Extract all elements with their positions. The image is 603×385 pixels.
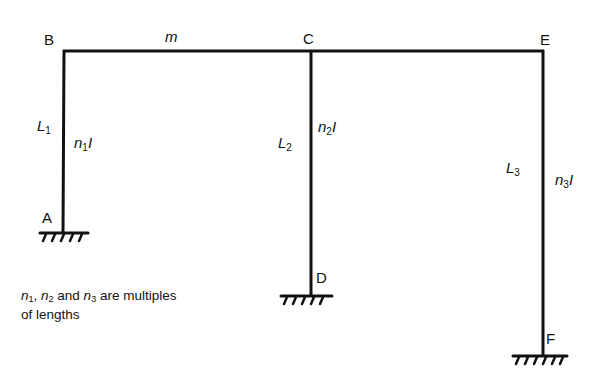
note-n2: n	[41, 288, 49, 303]
node-label-b: B	[44, 32, 54, 47]
stiffness-label-n1i: n1I	[74, 135, 92, 153]
fixed-support-f-icon	[513, 356, 567, 364]
frame-diagram	[0, 0, 603, 385]
fixed-support-d-icon	[281, 296, 332, 304]
stiffness-label-n2i: n2I	[318, 119, 336, 137]
length-label-l3: L3	[506, 160, 520, 178]
note-tail: are multiples	[96, 288, 176, 303]
node-label-d: D	[316, 270, 327, 285]
note-n3: n	[84, 288, 92, 303]
column-ab	[63, 50, 64, 233]
diagram-note: n1, n2 and n3 are multiples of lengths	[21, 288, 176, 323]
node-label-c: C	[303, 31, 314, 46]
length-subscript: 2	[286, 142, 292, 153]
note-line-1: n1, n2 and n3 are multiples	[21, 288, 176, 307]
beam-label-m: m	[165, 29, 178, 44]
note-sep1: ,	[34, 288, 42, 303]
length-subscript: 1	[45, 125, 51, 136]
length-label-l1: L1	[37, 118, 51, 136]
node-label-e: E	[540, 32, 550, 47]
note-line-2: of lengths	[21, 307, 176, 323]
inertia-symbol: I	[88, 134, 92, 151]
length-subscript: 3	[514, 167, 520, 178]
length-label-l2: L2	[278, 135, 292, 153]
node-label-a: A	[42, 210, 52, 225]
node-label-f: F	[546, 331, 555, 346]
stiffness-label-n3i: n3I	[555, 172, 573, 190]
inertia-symbol: I	[569, 171, 573, 188]
note-sep2: and	[54, 288, 84, 303]
inertia-symbol: I	[332, 118, 336, 135]
fixed-support-a-icon	[40, 233, 88, 241]
note-n1: n	[21, 288, 29, 303]
